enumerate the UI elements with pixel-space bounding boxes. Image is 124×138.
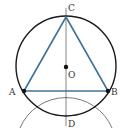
diagram-svg: A B C O D [0,0,124,138]
label-a: A [8,87,16,97]
label-d: D [68,119,75,129]
point-o [64,65,68,69]
label-c: C [68,3,75,13]
point-a [22,89,26,93]
point-b [106,89,110,93]
label-b: B [111,87,118,97]
label-o: O [68,70,75,80]
geometry-diagram: A B C O D [0,0,124,138]
